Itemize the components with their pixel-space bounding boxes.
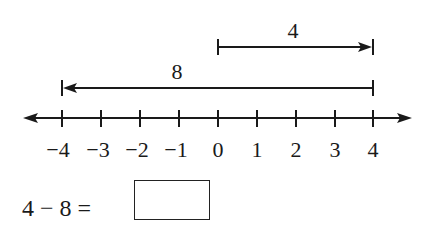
jump-label-8: 8 [172, 61, 183, 83]
jump-label-4: 4 [288, 20, 299, 42]
tick-label: 2 [291, 139, 302, 161]
answer-input-box[interactable] [134, 180, 210, 220]
tick-label: 4 [368, 139, 379, 161]
tick-label: 0 [213, 139, 224, 161]
tick-label: 1 [252, 139, 263, 161]
equation-text: 4 − 8 = [22, 195, 91, 221]
tick-label: 3 [330, 139, 341, 161]
tick-label: −2 [125, 139, 148, 161]
jump-arrow-minus-8 [62, 80, 373, 96]
tick-label: −3 [86, 139, 109, 161]
tick-label: −4 [46, 139, 69, 161]
number-line-axis [23, 110, 412, 127]
tick-label: −1 [164, 139, 187, 161]
